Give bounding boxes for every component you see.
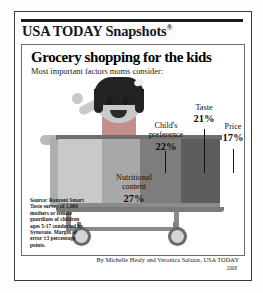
headline: Grocery shopping for the kids: [31, 49, 237, 66]
top-rule-divider: [21, 19, 243, 22]
byline: By Michelle Healy and Veronica Salazar, …: [21, 256, 243, 263]
year-stamp: 2008: [21, 265, 243, 271]
label-nutritional-line1: Nutritional: [108, 173, 160, 182]
child-eye-right: [122, 97, 129, 105]
leader-line-price: [233, 149, 234, 173]
label-nutritional-content: Nutritional content 27%: [108, 173, 160, 204]
label-taste-line1: Taste: [187, 103, 221, 112]
leader-line-childs-preference: [165, 151, 166, 173]
label-price-line1: Price: [218, 122, 245, 131]
value-price: 17%: [218, 132, 245, 143]
usa-today-snapshots-logo: USA TODAY Snapshots®: [22, 23, 232, 41]
snapshot-graphic: USA TODAY Snapshots® Grocery shopping fo…: [0, 0, 263, 293]
value-nutritional: 27%: [108, 193, 160, 204]
logo-text: USA TODAY Snapshots: [22, 23, 167, 39]
child-eye-left: [106, 97, 113, 105]
label-childs-preference-line1: Child's: [140, 121, 192, 130]
shopping-cart-illustration: Child's preference 22% Taste 21% Price 1…: [22, 77, 244, 255]
registered-mark-icon: ®: [167, 23, 173, 32]
label-price: Price 17%: [218, 122, 245, 143]
source-note: Source: Ronzoni Smart Taste survey of 1,…: [30, 197, 88, 248]
label-nutritional-line2: content: [108, 182, 160, 191]
subheadline: Most important factors moms consider:: [31, 67, 237, 76]
child-hand: [72, 93, 83, 104]
cart-wheel-right: [168, 227, 187, 246]
chart-panel: Grocery shopping for the kids Most impor…: [21, 44, 245, 256]
label-taste: Taste 21%: [187, 103, 221, 124]
value-taste: 21%: [187, 113, 221, 124]
value-childs-preference: 22%: [140, 141, 192, 152]
leader-line-taste: [204, 129, 205, 173]
label-childs-preference-line2: preference: [140, 130, 192, 139]
label-childs-preference: Child's preference 22%: [140, 121, 192, 152]
